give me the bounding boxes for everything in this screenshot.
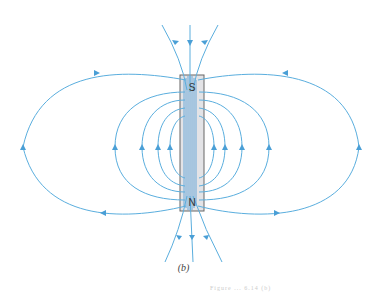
pole-label-south: S <box>189 82 196 93</box>
figure-caption: (b) <box>0 262 367 273</box>
internal-field-lines <box>184 75 196 211</box>
field-lines-svg: S N <box>0 0 367 293</box>
page-footer-fragment: Figure ... 6.14 (b) <box>210 285 271 291</box>
bar-magnet-field-diagram: S N <box>0 0 367 293</box>
pole-label-north: N <box>188 197 195 208</box>
